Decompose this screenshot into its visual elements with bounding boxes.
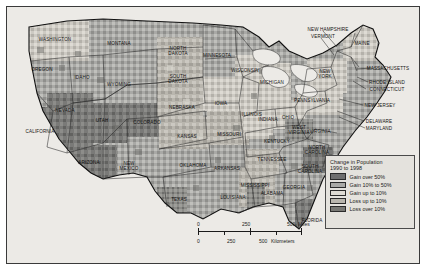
legend-label-loss-up-to-10: Loss up to 10% — [350, 198, 387, 204]
scale-miles-tick-0: 0 — [197, 221, 200, 227]
legend-swatch-gain-up-to-10 — [330, 190, 346, 197]
legend-swatch-loss-over-10 — [330, 206, 346, 213]
scale-miles-tick-2: 500 — [287, 221, 295, 227]
scale-km-tick-1: 250 — [227, 238, 235, 244]
legend-entry-gain-10-to-50: Gain 10% to 50% — [330, 182, 410, 189]
scale-miles-unit: Miles — [298, 221, 310, 227]
legend-label-gain-up-to-10: Gain up to 10% — [350, 190, 387, 196]
legend-label-gain-10-to-50: Gain 10% to 50% — [350, 182, 392, 188]
legend-entry-gain-over-50: Gain over 50% — [330, 173, 410, 180]
map-frame: WASHINGTONOREGONIDAHOMONTANAWYOMINGNEVAD… — [6, 6, 420, 264]
scale-bar: 0 250 500 Miles 0 250 500 Kilometers — [197, 221, 315, 257]
legend-label-gain-over-50: Gain over 50% — [350, 174, 386, 180]
map-screenshot: WASHINGTONOREGONIDAHOMONTANAWYOMINGNEVAD… — [0, 0, 426, 270]
legend-entry-loss-over-10: Loss over 10% — [330, 206, 410, 213]
legend-swatch-loss-up-to-10 — [330, 198, 346, 205]
scale-km-unit: Kilometers — [271, 238, 295, 244]
legend-title-line-2: 1990 to 1998 — [330, 165, 410, 171]
legend-label-loss-over-10: Loss over 10% — [350, 206, 386, 212]
legend-swatch-gain-10-to-50 — [330, 182, 346, 189]
legend-swatch-gain-over-50 — [330, 173, 346, 180]
legend-entries: Gain over 50%Gain 10% to 50%Gain up to 1… — [330, 173, 410, 212]
map-legend: Change in Population 1990 to 1998 Gain o… — [325, 155, 415, 229]
legend-entry-gain-up-to-10: Gain up to 10% — [330, 190, 410, 197]
scale-miles-tick-1: 250 — [242, 221, 250, 227]
legend-entry-loss-up-to-10: Loss up to 10% — [330, 198, 410, 205]
scale-km-tick-2: 500 — [259, 238, 267, 244]
scale-km-tick-0: 0 — [197, 238, 200, 244]
